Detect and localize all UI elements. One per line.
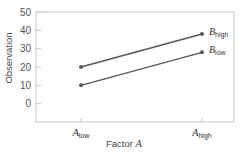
y-axis-title: Observation (3, 32, 14, 83)
interaction-plot: 01020304050 BhighBlow AlowAhigh Observat… (0, 0, 248, 158)
y-tick-label: 50 (20, 7, 32, 18)
y-tick-label: 30 (20, 43, 32, 54)
x-category-label: Alow (72, 127, 91, 139)
data-point (200, 32, 204, 36)
y-tick-label: 20 (20, 62, 32, 73)
data-point (200, 50, 204, 54)
plot-area: BhighBlow (79, 26, 228, 87)
data-point (79, 83, 83, 87)
plot-frame (36, 12, 234, 122)
x-axis-title: Factor A (106, 138, 143, 149)
y-axis: 01020304050 (20, 7, 41, 110)
series-line-B_low (81, 52, 202, 85)
series-line-B_high (81, 34, 202, 67)
y-tick-label: 0 (25, 98, 31, 109)
data-point (79, 65, 83, 69)
x-axis: AlowAhigh (72, 118, 212, 140)
series-label-B_high: Bhigh (209, 26, 228, 39)
y-tick-label: 40 (20, 25, 32, 36)
series-label-B_low: Blow (209, 44, 227, 56)
y-tick-label: 10 (20, 80, 32, 91)
x-category-label: Ahigh (191, 127, 211, 140)
